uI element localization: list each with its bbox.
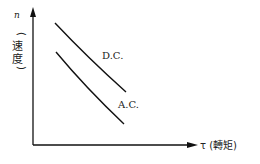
y-axis-paren-open: ( bbox=[16, 32, 27, 36]
speed-torque-diagram: n ( 速 度 ) D.C. A.C. τ (轉矩) bbox=[0, 0, 260, 164]
y-axis-char-speed2: 度 bbox=[12, 52, 23, 66]
y-axis-symbol: n bbox=[14, 10, 20, 20]
y-axis-arrow-icon bbox=[30, 7, 36, 17]
x-axis-label: τ (轉矩) bbox=[200, 139, 237, 151]
y-axis-char-speed1: 速 bbox=[12, 40, 23, 53]
dc-label: D.C. bbox=[102, 50, 123, 61]
ac-label: A.C. bbox=[117, 99, 139, 110]
ac-curve bbox=[56, 52, 124, 124]
y-axis-paren-close: ) bbox=[16, 66, 27, 70]
x-axis-arrow-icon bbox=[187, 142, 198, 148]
